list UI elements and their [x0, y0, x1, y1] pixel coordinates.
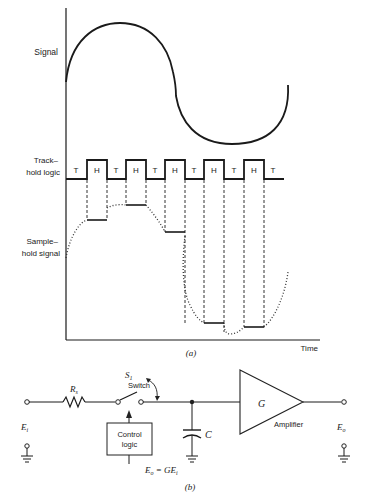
signal-waveform [66, 23, 288, 144]
state-label: T [74, 166, 79, 175]
time-axis-label: Time [301, 344, 319, 353]
switch-contact-left [116, 400, 121, 405]
sample-hold-label-1: Sample– [26, 237, 58, 246]
switch-contact-right [139, 400, 144, 405]
projection-lines [87, 180, 264, 332]
state-label: T [114, 166, 119, 175]
control-logic-block [107, 423, 152, 455]
capacitor-label: C [205, 429, 212, 440]
caption-b: (b) [185, 482, 196, 492]
caption-a: (a) [186, 348, 197, 358]
output-terminal [342, 400, 347, 405]
gain-equation: Eo = GEi [144, 465, 178, 476]
amplifier-label: Amplifier [274, 420, 304, 429]
state-label: T [153, 166, 158, 175]
control-logic-label-2: logic [122, 440, 138, 449]
input-terminal [25, 400, 30, 405]
switch-symbol-label: S1 [125, 370, 133, 381]
state-label: H [94, 166, 100, 175]
output-ground-icon [338, 444, 350, 462]
resistor-icon [63, 397, 85, 407]
state-label: T [271, 166, 276, 175]
state-label: T [232, 166, 237, 175]
state-label: T [192, 166, 197, 175]
switch-label: Switch [128, 381, 150, 390]
input-label: Ei [20, 422, 29, 433]
track-hold-label-2: hold logic [26, 168, 60, 177]
input-ground-icon [21, 444, 33, 462]
switch-blade[interactable] [120, 392, 137, 400]
state-label: H [172, 166, 178, 175]
sample-hold-label-2: hold signal [22, 249, 60, 258]
sample-hold-figure: Signal Track– hold logic T H T H T H T H… [0, 0, 366, 504]
resistor-label: Rs [69, 384, 79, 395]
circuit-diagram: Rs S1 Switch Control logic C G [20, 370, 350, 492]
output-label: Eo [336, 422, 346, 433]
timing-diagram: Signal Track– hold logic T H T H T H T H… [22, 8, 320, 358]
control-arrow-icon [126, 410, 132, 418]
track-hold-label-1: Track– [34, 156, 59, 165]
state-label: H [211, 166, 217, 175]
signal-label: Signal [34, 47, 58, 57]
amplifier-gain-label: G [258, 398, 265, 409]
logic-state-labels: T H T H T H T H T H T [74, 166, 276, 175]
state-label: H [133, 166, 139, 175]
state-label: H [251, 166, 257, 175]
sample-hold-waveform [66, 205, 288, 334]
control-logic-label-1: Control [117, 430, 142, 439]
